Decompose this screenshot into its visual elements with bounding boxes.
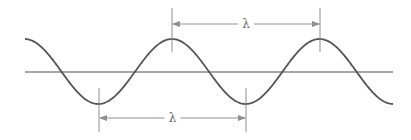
crest-wavelength-dimension: λ: [172, 8, 320, 52]
crest-wavelength-label: λ: [242, 17, 250, 31]
wavelength-diagram: λ λ: [0, 0, 411, 140]
trough-wavelength-dimension: λ: [99, 88, 246, 132]
wave-figure: λ λ: [0, 0, 411, 140]
trough-wavelength-label: λ: [169, 111, 177, 125]
